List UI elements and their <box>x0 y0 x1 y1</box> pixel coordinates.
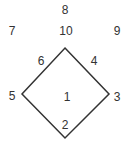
label-3: 3 <box>114 91 121 103</box>
label-5: 5 <box>9 90 16 102</box>
label-4: 4 <box>91 55 98 67</box>
label-7: 7 <box>9 25 16 37</box>
label-9: 9 <box>114 25 121 37</box>
label-6: 6 <box>38 55 45 67</box>
label-10: 10 <box>59 25 72 37</box>
label-1: 1 <box>64 91 71 103</box>
label-2: 2 <box>62 119 69 131</box>
label-8: 8 <box>62 4 69 16</box>
